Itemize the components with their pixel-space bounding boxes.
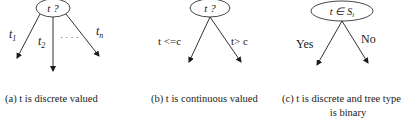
caption-c-line1: (c) t is discrete and tree type <box>282 93 401 105</box>
branch-label-c-no: No <box>361 32 376 46</box>
caption-b: (b) t is continuous valued <box>151 93 258 105</box>
branch-label-a-1: t1 <box>9 27 16 43</box>
diagram-a: t ? t1 t2 · · · · tn (a) t is discrete v… <box>5 0 103 105</box>
diagram-c: t ∈ Si Yes No (c) t is discrete and tree… <box>282 1 401 118</box>
branch-arrow-a-1 <box>17 14 40 58</box>
branch-label-a-2: t2 <box>38 34 45 50</box>
branch-arrow-b-left <box>189 17 210 62</box>
node-label-c: t ∈ Si <box>330 6 354 19</box>
branch-ellipsis-a: · · · · <box>60 32 79 42</box>
branch-label-b-left: t <=c <box>158 35 181 47</box>
decision-node-split-diagrams: t ? t1 t2 · · · · tn (a) t is discrete v… <box>0 0 419 122</box>
caption-a: (a) t is discrete valued <box>5 93 98 105</box>
caption-c-line2: is binary <box>330 107 367 118</box>
node-label-b: t ? <box>204 2 216 14</box>
diagram-b: t ? t <=c t> c (b) t is continuous value… <box>151 0 258 105</box>
branch-label-c-yes: Yes <box>296 37 314 51</box>
branch-arrow-c-yes <box>317 21 342 65</box>
node-label-a: t ? <box>47 2 59 14</box>
branch-label-b-right: t> c <box>231 35 248 47</box>
branch-label-a-n: tn <box>96 24 103 40</box>
